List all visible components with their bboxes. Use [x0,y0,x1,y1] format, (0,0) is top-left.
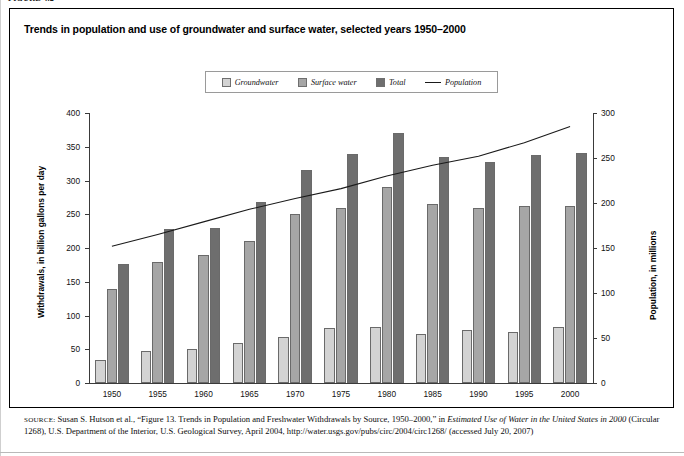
y-axis-left-tick-label: 350 [48,142,80,152]
y-axis-right-tick-label: 150 [601,243,633,253]
legend-item-population: Population [425,78,481,87]
y-axis-left-tick-label: 400 [48,108,80,118]
population-line-svg [89,113,593,383]
x-axis-tick-label: 1980 [364,389,410,399]
y-axis-left-tick-label: 250 [48,209,80,219]
y-axis-right-tick-label: 250 [601,153,633,163]
legend-item-total: Total [376,78,406,87]
x-axis-tick-label: 1950 [89,389,135,399]
chart-legend: GroundwaterSurface waterTotalPopulation [205,71,498,93]
x-axis-tick-label: 1955 [135,389,181,399]
x-axis-tick-label: 1965 [226,389,272,399]
plot-area [89,113,593,383]
legend-label: Total [389,78,406,87]
y-axis-right-tick [593,248,597,249]
figure-label: FIGURE 4.2 [8,0,54,3]
page-title: Trends in population and use of groundwa… [24,23,466,35]
bottom-rule [0,452,684,453]
y-axis-left-tick-label: 50 [48,344,80,354]
y-axis-right-tick [593,113,597,114]
y-axis-right-tick [593,293,597,294]
legend-label: Surface water [311,78,357,87]
x-axis-tick-label: 1960 [181,389,227,399]
x-axis-tick-label: 1970 [272,389,318,399]
x-axis [89,383,593,384]
legend-item-groundwater: Groundwater [222,78,279,87]
population-line [112,127,570,247]
x-axis-tick-label: 2000 [547,389,593,399]
x-axis-tick-label: 1975 [318,389,364,399]
y-axis-left-title: Withdrawals, in billion gallons per day [36,166,46,318]
y-axis-left-tick-label: 100 [48,311,80,321]
y-axis-left-tick-label: 300 [48,176,80,186]
legend-color-swatch [298,78,307,87]
source-note: SOURCE: Susan S. Hutson et al., “Figure … [24,414,664,438]
source-italic-title: Estimated Use of Water in the United Sta… [447,414,626,424]
x-axis-tick-label: 1995 [501,389,547,399]
y-axis-right-tick [593,203,597,204]
y-axis-left-tick-label: 0 [48,378,80,388]
legend-item-surface-water: Surface water [298,78,357,87]
y-axis-right-title: Population, in millions [648,231,658,320]
y-axis-right-tick-label: 200 [601,198,633,208]
y-axis-right-tick-label: 100 [601,288,633,298]
y-axis-left-tick-label: 150 [48,277,80,287]
legend-label: Groundwater [235,78,279,87]
y-axis-right-tick [593,383,597,384]
y-axis-right-tick [593,158,597,159]
legend-color-swatch [376,78,385,87]
y-axis-left-tick [85,383,89,384]
source-text-1: Susan S. Hutson et al., “Figure 13. Tren… [55,414,447,424]
figure-page: FIGURE 4.2 Trends in population and use … [0,0,684,456]
y-axis-right-tick-label: 300 [601,108,633,118]
page-left-edge [0,0,1,456]
legend-line-swatch [425,82,441,83]
y-axis-right-tick [593,338,597,339]
legend-color-swatch [222,78,231,87]
legend-label: Population [445,78,481,87]
y-axis-right-tick-label: 50 [601,333,633,343]
x-axis-tick-label: 1990 [455,389,501,399]
y-axis-right-tick-label: 0 [601,378,633,388]
y-axis-left-tick-label: 200 [48,243,80,253]
source-prefix: SOURCE: [24,416,55,424]
x-axis-tick-label: 1985 [410,389,456,399]
